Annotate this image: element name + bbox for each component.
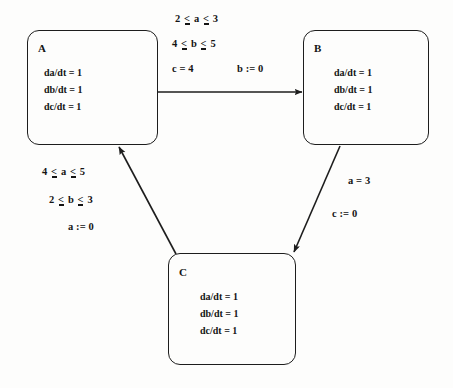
state-label-a: A (38, 42, 46, 54)
state-label-c: C (179, 266, 187, 278)
guard-lower-bound: 2 (175, 13, 180, 24)
flow-equation: db/dt = 1 (200, 305, 239, 322)
guard-upper-bound: 5 (210, 38, 215, 49)
flow-equation: db/dt = 1 (44, 81, 83, 98)
flow-equation: da/dt = 1 (200, 288, 239, 305)
guard-variable: b (191, 38, 197, 49)
guard-upper-bound: 3 (87, 194, 92, 205)
flow-equation: dc/dt = 1 (44, 98, 83, 115)
state-a-flows: da/dt = 1 db/dt = 1 dc/dt = 1 (44, 64, 83, 115)
edge-c-to-a-guard-2: 2 < b < 3 (49, 194, 93, 205)
flow-equation: dc/dt = 1 (200, 322, 239, 339)
edge-b-to-c-action: c := 0 (332, 208, 357, 219)
state-b-flows: da/dt = 1 db/dt = 1 dc/dt = 1 (334, 64, 373, 115)
edge-a-to-b-guard-1: 2 < a < 3 (175, 13, 218, 24)
less-equal-icon: < (183, 13, 191, 24)
less-equal-icon: < (200, 38, 208, 49)
less-equal-icon: < (69, 166, 77, 177)
guard-variable: a (61, 166, 66, 177)
state-label-b: B (314, 42, 322, 54)
flow-equation: da/dt = 1 (44, 64, 83, 81)
less-equal-icon: < (180, 38, 188, 49)
edge-c-to-a (119, 147, 176, 254)
guard-upper-bound: 5 (80, 166, 85, 177)
flow-equation: db/dt = 1 (334, 81, 373, 98)
edge-c-to-a-action: a := 0 (68, 221, 94, 232)
edge-a-to-b-guard-3: c = 4 (172, 63, 194, 74)
less-equal-icon: < (57, 194, 65, 205)
flow-equation: dc/dt = 1 (334, 98, 373, 115)
guard-lower-bound: 4 (42, 166, 47, 177)
guard-lower-bound: 2 (49, 194, 54, 205)
guard-upper-bound: 3 (213, 13, 218, 24)
edge-b-to-c-guard: a = 3 (348, 175, 370, 186)
edge-a-to-b-guard-2: 4 < b < 5 (172, 38, 216, 49)
diagram-canvas: A da/dt = 1 db/dt = 1 dc/dt = 1 B da/dt … (0, 0, 453, 388)
guard-variable: a (194, 13, 199, 24)
less-equal-icon: < (77, 194, 85, 205)
less-equal-icon: < (202, 13, 210, 24)
edge-b-to-c (294, 146, 340, 252)
guard-lower-bound: 4 (172, 38, 177, 49)
edge-a-to-b-action: b := 0 (237, 63, 263, 74)
flow-equation: da/dt = 1 (334, 64, 373, 81)
edge-c-to-a-guard-1: 4 < a < 5 (42, 166, 85, 177)
less-equal-icon: < (50, 166, 58, 177)
state-c-flows: da/dt = 1 db/dt = 1 dc/dt = 1 (200, 288, 239, 339)
guard-variable: b (68, 194, 74, 205)
